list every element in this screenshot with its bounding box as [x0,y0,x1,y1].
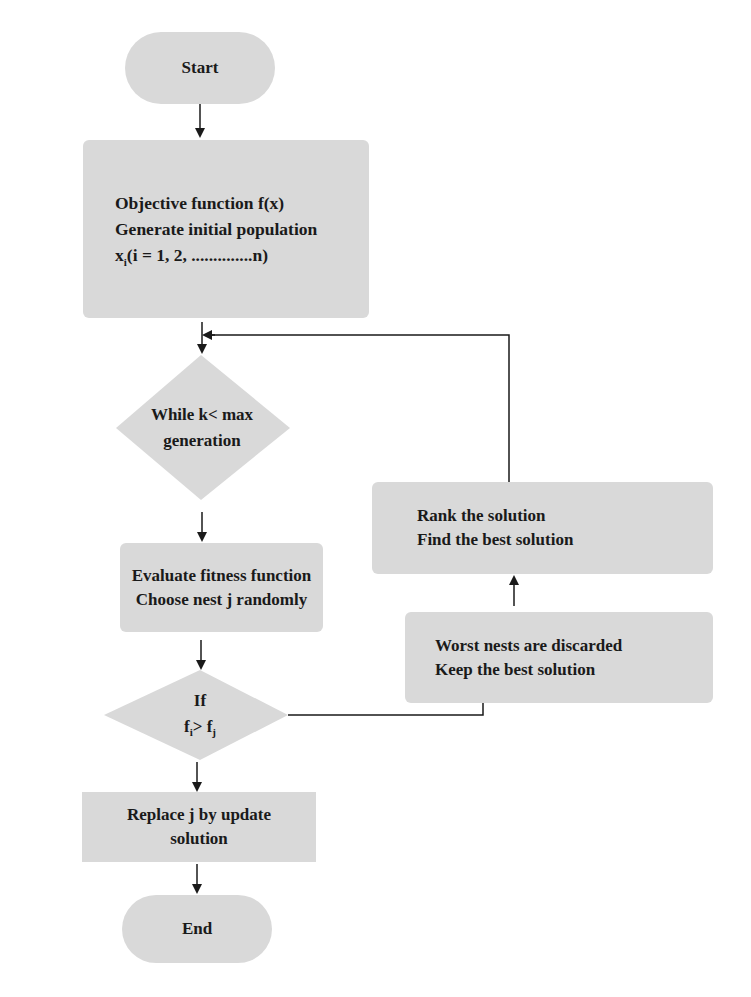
decision-while-label: While k< max generation [130,395,274,461]
rank-process-box: Rank the solution Find the best solution [372,482,713,574]
replace-line-1: Replace j by update [127,803,271,827]
evaluate-line-1: Evaluate fitness function [132,564,311,588]
init-process-box: Objective function f(x) Generate initial… [83,140,369,318]
worst-process-box: Worst nests are discarded Keep the best … [405,612,713,703]
evaluate-process-box: Evaluate fitness function Choose nest j … [120,543,323,632]
decision-if-label: If fi> fj [140,684,260,744]
start-terminator: Start [125,32,275,104]
worst-line-1: Worst nests are discarded [435,634,622,658]
init-line-2: Generate initial population [115,216,317,242]
end-terminator: End [122,895,272,963]
worst-line-2: Keep the best solution [435,658,595,682]
rank-line-2: Find the best solution [417,528,573,552]
init-line-3: xi(i = 1, 2, ..............n) [115,242,268,268]
start-label: Start [182,56,219,80]
evaluate-line-2: Choose nest j randomly [136,588,307,612]
end-label: End [182,917,212,941]
init-line-1: Objective function f(x) [115,190,284,216]
replace-process-box: Replace j by update solution [82,792,316,862]
replace-line-2: solution [170,827,228,851]
rank-line-1: Rank the solution [417,504,545,528]
